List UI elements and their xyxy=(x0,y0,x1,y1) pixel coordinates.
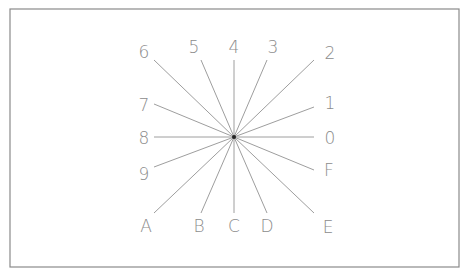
direction-label-4: 4 xyxy=(229,37,240,57)
direction-label-A: A xyxy=(140,216,152,236)
direction-label-2: 2 xyxy=(325,43,336,63)
direction-label-B: B xyxy=(193,216,204,236)
ray-1 xyxy=(234,107,314,137)
ray-3 xyxy=(234,60,267,137)
ray-9 xyxy=(154,137,234,167)
center-dot xyxy=(232,135,236,139)
direction-label-7: 7 xyxy=(139,95,150,115)
direction-label-8: 8 xyxy=(139,128,150,148)
ray-6 xyxy=(154,60,234,137)
direction-label-5: 5 xyxy=(189,37,200,57)
direction-label-1: 1 xyxy=(325,93,336,113)
direction-star-diagram: 0123456789ABCDEF xyxy=(0,0,468,278)
direction-label-3: 3 xyxy=(268,37,279,57)
direction-label-E: E xyxy=(323,217,334,237)
direction-label-D: D xyxy=(260,216,273,236)
ray-E xyxy=(234,137,314,213)
ray-A xyxy=(154,137,234,213)
ray-B xyxy=(201,137,234,213)
direction-label-0: 0 xyxy=(325,128,336,148)
direction-label-9: 9 xyxy=(139,164,150,184)
ray-2 xyxy=(234,60,314,137)
direction-label-6: 6 xyxy=(139,42,150,62)
direction-label-F: F xyxy=(324,160,334,180)
direction-label-C: C xyxy=(228,216,240,236)
